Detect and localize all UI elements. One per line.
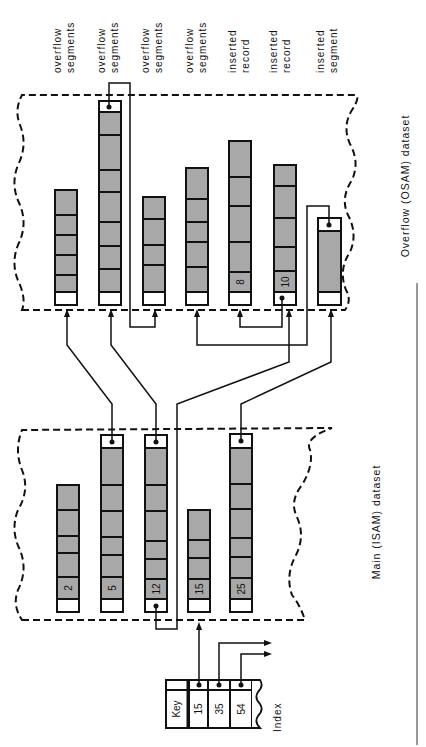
main-record-25: 25 <box>230 434 252 612</box>
index-pointer-35 <box>219 643 266 685</box>
index-key-54: 54 <box>236 703 247 715</box>
arrow-right-icon <box>264 640 272 646</box>
overflow-label-4b: segments <box>197 22 208 73</box>
main-record-12: 12 <box>145 435 167 612</box>
inserted-segment-label-a: inserted <box>315 29 326 73</box>
inserted-segment <box>318 218 341 305</box>
record-key-15: 15 <box>194 583 205 595</box>
record-key-2: 2 <box>63 585 74 591</box>
index-torn-edge <box>252 680 262 728</box>
main-dataset-label: Main (ISAM) dataset <box>370 465 382 580</box>
main-record-5: 5 <box>101 435 123 612</box>
record-key-12: 12 <box>151 583 162 595</box>
overflow-label-1b: segments <box>65 22 76 73</box>
inserted-record-10: 10 <box>274 165 296 305</box>
inserted-segment-label-b: segment <box>328 28 339 73</box>
overflow-label-3a: overflow <box>140 28 151 73</box>
pointer-12-to-of2 <box>111 315 156 442</box>
record-key-5: 5 <box>107 585 118 591</box>
main-record-15: 15 <box>188 510 210 612</box>
pointer-of7-to-of4 <box>197 206 329 345</box>
main-record-2: 2 <box>57 485 79 612</box>
isam-overflow-diagram: overflow segments overflow segments over… <box>0 0 426 747</box>
overflow-label-2a: overflow <box>96 28 107 73</box>
overflow-label-4a: overflow <box>184 28 195 73</box>
overflow-segment-1 <box>55 190 77 305</box>
record-key-8: 8 <box>235 279 246 285</box>
index-label: Index <box>272 703 283 732</box>
overflow-segment-3 <box>143 197 165 305</box>
index-table: Key 15 35 54 <box>166 680 262 728</box>
pointer-5-to-of1 <box>67 315 112 442</box>
record-key-25: 25 <box>236 583 247 595</box>
index-key-header: Key <box>171 700 182 717</box>
overflow-segment-2 <box>99 101 121 305</box>
pointer-12-chain-to-of6 <box>156 315 289 629</box>
overflow-dataset-label: Overflow (OSAM) dataset <box>399 115 411 258</box>
pointer-25-to-of7 <box>241 315 331 441</box>
overflow-label-2b: segments <box>109 22 120 73</box>
index-key-15: 15 <box>193 703 204 715</box>
overflow-segment-4 <box>186 168 208 305</box>
arrow-up-icon <box>196 622 202 630</box>
inserted-record-label-1a: inserted <box>227 29 238 73</box>
inserted-record-label-1b: record <box>240 39 251 73</box>
record-key-10: 10 <box>280 276 291 288</box>
inserted-record-label-2a: inserted <box>268 29 279 73</box>
inserted-record-label-2b: record <box>281 39 292 73</box>
overflow-labels: overflow segments overflow segments over… <box>52 22 339 73</box>
index-key-35: 35 <box>214 703 225 715</box>
arrow-right-icon <box>264 651 272 657</box>
overflow-label-3b: segments <box>153 22 164 73</box>
inserted-record-8: 8 <box>229 141 251 305</box>
overflow-label-1a: overflow <box>52 28 63 73</box>
